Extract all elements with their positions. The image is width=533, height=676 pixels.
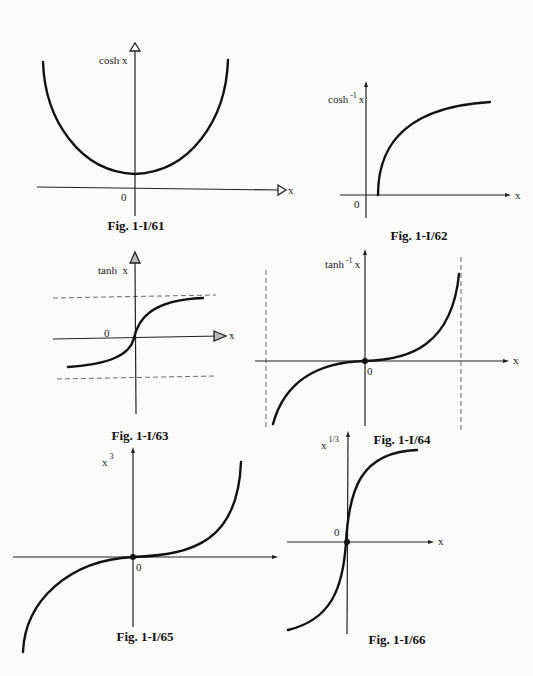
- figure-caption: Fig. 1-I/61: [107, 218, 164, 233]
- figure-cosh: cosh x x 0 Fig. 1-I/61: [37, 43, 294, 233]
- y-axis-arrow-icon: [130, 252, 140, 263]
- y-axis-arrow-icon: [131, 447, 135, 453]
- x-axis-label: x: [438, 535, 444, 547]
- cube-root-curve: [288, 450, 417, 630]
- origin-point: [130, 554, 136, 560]
- figure-caption: Fig. 1-I/66: [368, 632, 426, 647]
- x-axis-arrow-icon: [505, 193, 511, 197]
- x-axis-label: x: [515, 189, 521, 201]
- y-axis-arrow-icon: [130, 43, 140, 51]
- upper-asymptote: [53, 295, 216, 298]
- origin-label: 0: [121, 191, 127, 203]
- origin-label: 0: [334, 526, 340, 538]
- figure-caption: Fig. 1-I/64: [373, 432, 431, 447]
- origin-label: 0: [354, 198, 360, 210]
- y-axis-label: x3: [102, 452, 114, 468]
- figure-sheet: cosh x x 0 Fig. 1-I/61 cosh-1x x 0 Fig. …: [0, 0, 533, 676]
- origin-label: 0: [367, 365, 373, 377]
- y-axis-arrow-icon: [363, 249, 367, 255]
- origin-label: 0: [104, 327, 110, 339]
- figure-cube: x3 0 Fig. 1-I/65: [13, 447, 278, 652]
- y-axis-arrow-icon: [364, 81, 368, 87]
- figure-arccosh: cosh-1x x 0 Fig. 1-I/62: [328, 81, 521, 243]
- y-axis-label: cosh x: [99, 54, 128, 66]
- figure-caption: Fig. 1-I/65: [116, 629, 174, 644]
- x-axis: [53, 336, 220, 339]
- x-axis: [37, 187, 278, 190]
- x-axis-arrow-icon: [214, 331, 226, 341]
- x-axis-arrow-icon: [272, 555, 278, 559]
- x-axis-label: x: [288, 184, 294, 196]
- y-axis-label: cosh-1x: [328, 91, 365, 105]
- arccosh-curve: [378, 102, 490, 195]
- origin-point: [344, 539, 350, 545]
- x-axis-arrow-icon: [428, 540, 434, 544]
- y-axis-arrow-icon: [346, 431, 350, 437]
- figure-tanh: tanh x x 0 Fig. 1-I/63: [53, 252, 235, 443]
- lower-asymptote: [57, 376, 216, 379]
- y-axis-label: tanh-1x: [325, 256, 361, 270]
- figure-arctanh: tanh-1x x 0 Fig. 1-I/64: [255, 249, 519, 447]
- y-axis-label: x1/3: [321, 435, 339, 451]
- x-axis-label: x: [513, 354, 519, 366]
- arctanh-curve: [273, 274, 459, 424]
- x-axis-arrow-icon: [278, 185, 286, 195]
- figure-caption: Fig. 1-I/63: [111, 428, 169, 443]
- y-axis-label: tanh x: [98, 264, 128, 276]
- figure-caption: Fig. 1-I/62: [390, 228, 447, 243]
- x-axis-arrow-icon: [503, 359, 509, 363]
- x-axis-label: x: [229, 329, 235, 341]
- origin-label: 0: [136, 561, 142, 573]
- origin-point: [362, 358, 368, 364]
- figure-cube-root: x1/3 x 0 Fig. 1-I/66: [287, 431, 444, 647]
